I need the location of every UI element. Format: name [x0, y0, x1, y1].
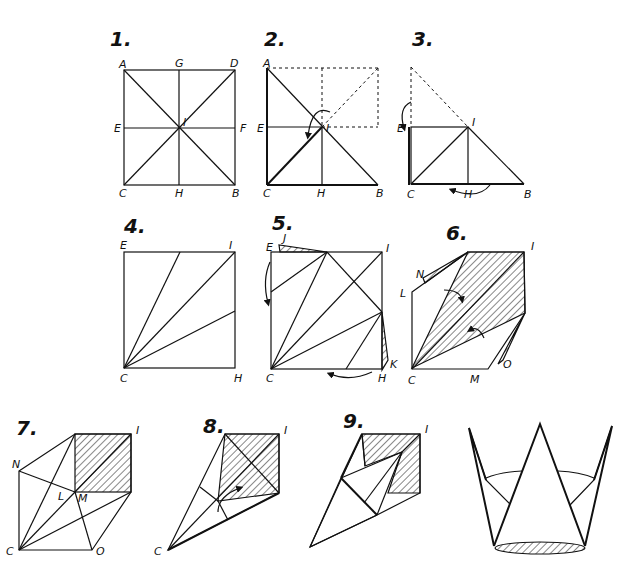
label-I: I [284, 424, 287, 437]
label-E: E [397, 122, 404, 135]
folding-diagram: 1. A G D E I F C H B 2. A E I C H B [0, 0, 642, 577]
label-I: I [183, 116, 186, 129]
final-crown [469, 424, 612, 554]
label-O: O [96, 545, 105, 558]
step-4-number: 4. [123, 214, 146, 238]
step-5: 5. E J I C H K [265, 211, 398, 385]
step-9-number: 9. [343, 409, 365, 433]
label-A: A [262, 57, 271, 70]
label-B: B [524, 188, 532, 201]
label-E: E [120, 239, 127, 252]
step-2-number: 2. [264, 27, 286, 51]
label-C: C [154, 545, 162, 558]
label-L: L [58, 490, 64, 503]
step-3-number: 3. [412, 27, 434, 51]
label-F: F [240, 122, 247, 135]
label-E: E [266, 241, 273, 254]
label-D: D [230, 57, 238, 70]
label-K: K [390, 358, 398, 371]
label-C: C [119, 187, 127, 200]
label-E: E [257, 122, 264, 135]
label-A: A [118, 58, 127, 71]
step-7: 7. I N L M C O [6, 416, 139, 558]
step-8: 8. I C [154, 414, 287, 558]
label-B: B [376, 187, 384, 200]
label-I: I [386, 242, 389, 255]
step-6: 6. N I L C M O [400, 221, 534, 387]
label-H: H [234, 372, 242, 385]
step-6-number: 6. [446, 221, 468, 245]
label-M: M [78, 492, 88, 505]
label-M: M [470, 373, 480, 386]
label-I: I [425, 423, 428, 436]
label-H: H [317, 187, 325, 200]
label-H: H [464, 188, 472, 201]
label-L: L [400, 287, 406, 300]
label-I: I [326, 122, 329, 135]
label-C: C [120, 372, 128, 385]
label-N: N [416, 268, 424, 281]
step-1: 1. A G D E I F C H B [110, 27, 247, 200]
step-1-number: 1. [110, 27, 132, 51]
step-8-number: 8. [203, 414, 225, 438]
label-C: C [263, 187, 271, 200]
label-C: C [266, 372, 274, 385]
label-H: H [378, 372, 386, 385]
label-I: I [472, 116, 475, 129]
label-N: N [12, 458, 20, 471]
step-3: 3. E I C H B [397, 27, 532, 201]
label-E: E [114, 122, 121, 135]
step-4: 4. E I C H [120, 214, 242, 385]
step-2: 2. A E I C H B [257, 27, 384, 200]
label-I: I [531, 240, 534, 253]
label-H: H [175, 187, 183, 200]
label-C: C [408, 374, 416, 387]
step-9: 9. I [310, 409, 428, 547]
label-I: I [136, 424, 139, 437]
label-B: B [232, 187, 240, 200]
label-C: C [6, 545, 14, 558]
label-I: I [229, 239, 232, 252]
label-C: C [407, 188, 415, 201]
step-7-number: 7. [16, 416, 38, 440]
label-G: G [175, 57, 184, 70]
label-O: O [503, 358, 512, 371]
